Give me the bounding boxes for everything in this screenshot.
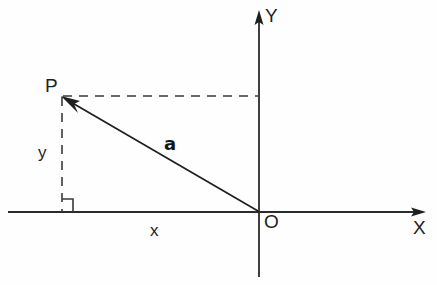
x-axis-label: X [413, 217, 426, 238]
point-p-label: P [45, 75, 58, 96]
y-axis-label: Y [265, 5, 278, 26]
origin-label: O [264, 211, 279, 232]
vector-a-label: a [164, 133, 176, 154]
diagram-canvas: Y X O P a x y [0, 0, 437, 285]
canvas-background [0, 0, 437, 285]
x-component-label: x [150, 221, 159, 240]
vector-diagram-figure: Y X O P a x y [0, 0, 437, 285]
y-component-label: y [38, 143, 47, 162]
